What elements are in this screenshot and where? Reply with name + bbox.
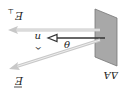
hat-mark: ^ xyxy=(34,41,42,51)
field-arrow xyxy=(9,40,100,70)
field-perp-label: E xyxy=(15,9,24,22)
field-perp-arrow xyxy=(8,26,100,34)
area-label: ΔA xyxy=(104,70,119,81)
field-label: E xyxy=(15,74,24,87)
field-perp-subscript: ⊥ xyxy=(7,7,14,15)
diagram-canvas: ΔA θ n ^ E E ⊥ xyxy=(0,0,131,91)
angle-label: θ xyxy=(64,39,70,50)
flux-diagram: ΔA θ n ^ E E ⊥ xyxy=(0,0,131,91)
